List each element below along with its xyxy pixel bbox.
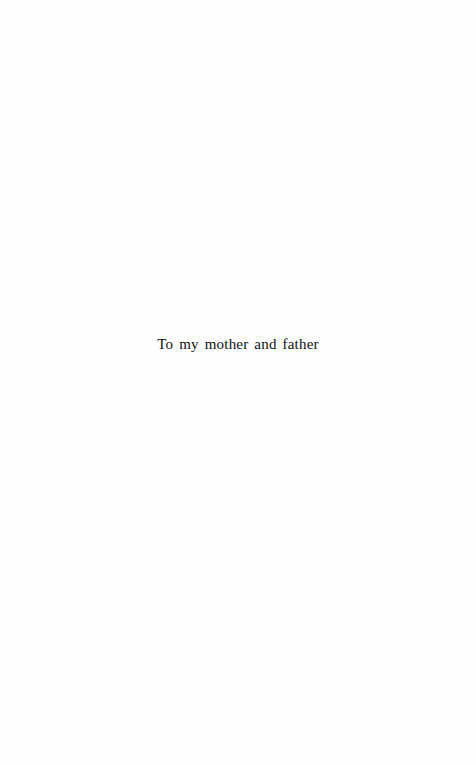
- dedication-text: To my mother and father: [0, 334, 476, 354]
- book-page: To my mother and father: [0, 0, 476, 765]
